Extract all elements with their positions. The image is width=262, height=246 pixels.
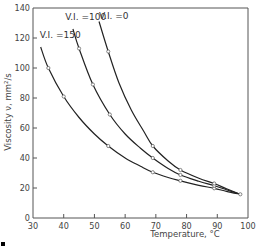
y-tick-label: 40: [20, 153, 30, 163]
x-tick-label: 100: [240, 221, 255, 231]
data-point-v-i-150: [239, 193, 242, 196]
data-point-v-i-100: [108, 113, 111, 116]
curve-v-i-0: [99, 22, 240, 195]
y-tick-label: 140: [15, 3, 30, 13]
data-point-v-i-100: [77, 47, 80, 50]
series-labels: V.I. =150V.I. =100V.I. =0: [40, 11, 129, 41]
curve-v-i-150: [41, 47, 241, 194]
viscosity-temperature-chart: 30405060708090100 020406080100120140 V.I…: [0, 0, 262, 246]
data-point-v-i-100: [91, 83, 94, 86]
data-point-v-i-150: [151, 171, 154, 174]
x-axis-label: Temperature, °C: [149, 229, 219, 239]
data-point-v-i-150: [107, 144, 110, 147]
y-tick-label: 0: [25, 213, 30, 223]
y-tick-label: 80: [20, 93, 30, 103]
x-ticks: 30405060708090100: [28, 214, 256, 231]
data-point-v-i-150: [62, 95, 65, 98]
y-ticks: 020406080100120140: [15, 3, 37, 223]
y-axis-label: Viscosity ν, mm²/s: [3, 73, 13, 151]
data-point-v-i-150: [47, 66, 50, 69]
x-tick-label: 60: [120, 221, 130, 231]
data-point-v-i-150: [179, 179, 182, 182]
corner-mark: [1, 242, 5, 246]
data-point-v-i-0: [151, 144, 154, 147]
data-point-v-i-0: [179, 168, 182, 171]
data-point-v-i-100: [179, 173, 182, 176]
data-point-v-i-0: [107, 50, 110, 53]
x-tick-label: 40: [59, 221, 69, 231]
x-tick-label: 50: [89, 221, 99, 231]
series-markers: [47, 47, 242, 196]
y-tick-label: 120: [15, 33, 30, 43]
series-label-v-i-150: V.I. =150: [40, 30, 81, 40]
data-point-v-i-0: [213, 182, 216, 185]
y-tick-label: 100: [15, 63, 30, 73]
data-point-v-i-100: [151, 156, 154, 159]
series-curves: [41, 22, 241, 195]
y-tick-label: 60: [20, 123, 30, 133]
y-tick-label: 20: [20, 183, 30, 193]
series-label-v-i-0: V.I. =0: [99, 11, 129, 21]
curve-v-i-100: [73, 29, 240, 194]
